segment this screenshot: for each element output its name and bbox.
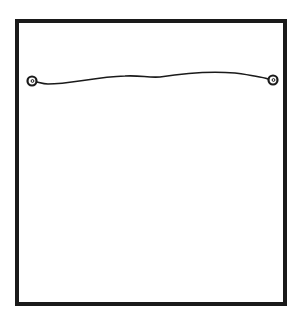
right-eyelet-hole-icon bbox=[272, 79, 275, 82]
picture-frame-outline bbox=[17, 21, 285, 304]
left-eyelet-hole-icon bbox=[31, 80, 34, 83]
frame-diagram bbox=[0, 0, 302, 317]
hanging-wire bbox=[37, 72, 268, 84]
left-eyelet-icon bbox=[28, 77, 37, 86]
right-eyelet-icon bbox=[269, 76, 278, 85]
diagram-canvas: Line drawing of a rectangular frame back… bbox=[0, 0, 302, 317]
